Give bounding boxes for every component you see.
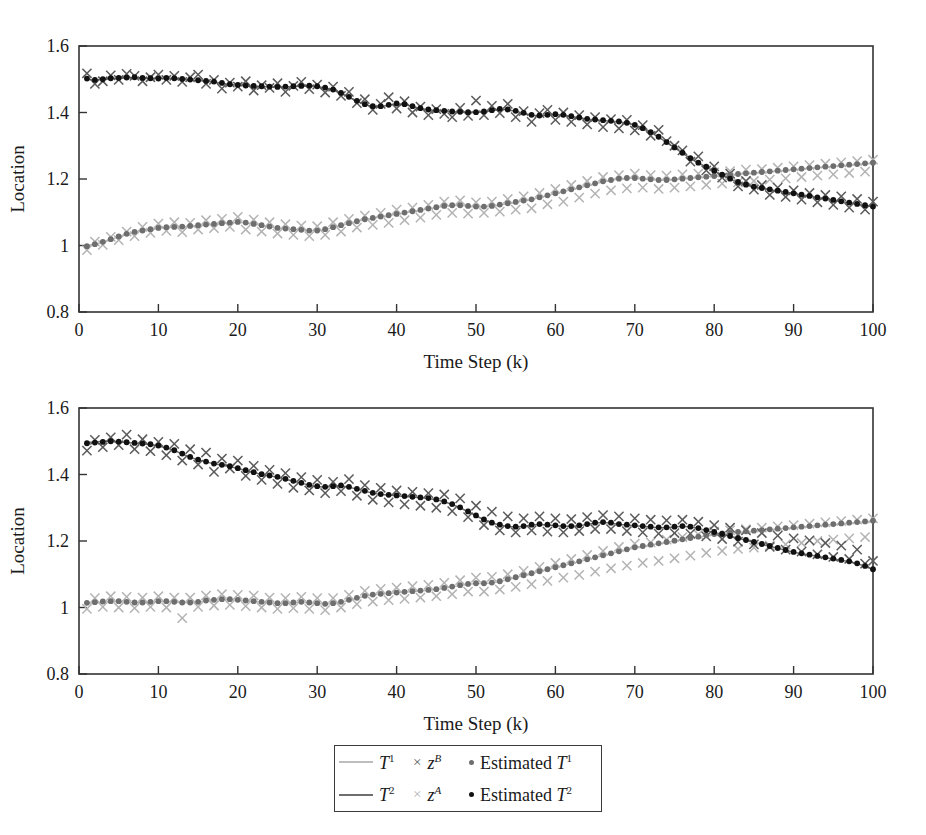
legend-marker-entry-2: ×zA xyxy=(413,785,469,804)
x-tick-label: 0 xyxy=(75,320,84,340)
dot-marker-icon xyxy=(469,792,474,797)
y-axis-label: Location xyxy=(7,507,28,575)
x-tick-label: 70 xyxy=(626,320,644,340)
x-tick-label: 60 xyxy=(546,320,564,340)
x-tick-label: 0 xyxy=(75,682,84,702)
x-tick-label: 10 xyxy=(149,320,167,340)
legend-marker-label: zA xyxy=(427,785,441,804)
x-tick-label: 30 xyxy=(308,682,326,702)
chart-panel-bottom: 01020304050607080901000.811.21.41.6Time … xyxy=(0,362,926,737)
series-line-t1 xyxy=(87,163,873,245)
x-tick-label: 20 xyxy=(229,320,247,340)
x-axis-label: Time Step (k) xyxy=(424,713,529,735)
legend-line-entry-2: T2 xyxy=(339,785,413,804)
legend-estimate-label: Estimated T2 xyxy=(480,785,572,804)
legend-estimate-entry-1: Estimated T1 xyxy=(469,753,607,772)
y-tick-label: 1 xyxy=(60,236,69,256)
x-tick-label: 40 xyxy=(388,320,406,340)
x-tick-label: 50 xyxy=(467,320,485,340)
dot-marker-icon xyxy=(469,760,474,765)
chart-svg: 01020304050607080901000.811.21.41.6Time … xyxy=(0,0,926,375)
x-tick-label: 80 xyxy=(705,682,723,702)
series-crosses-zb xyxy=(82,69,877,215)
x-tick-label: 40 xyxy=(388,682,406,702)
legend-estimate-entry-2: Estimated T2 xyxy=(469,785,607,804)
legend-line-entry-1: T1 xyxy=(339,753,413,772)
x-tick-label: 30 xyxy=(308,320,326,340)
y-tick-label: 1.6 xyxy=(47,36,70,56)
y-tick-label: 1.2 xyxy=(47,531,70,551)
x-tick-label: 90 xyxy=(785,320,803,340)
legend-marker-label: zB xyxy=(427,753,441,772)
x-tick-label: 70 xyxy=(626,682,644,702)
cross-marker-icon: × xyxy=(413,787,421,802)
x-tick-label: 60 xyxy=(546,682,564,702)
chart-svg: 01020304050607080901000.811.21.41.6Time … xyxy=(0,362,926,737)
y-tick-label: 1 xyxy=(60,598,69,618)
x-tick-label: 80 xyxy=(705,320,723,340)
legend-line-label: T2 xyxy=(379,785,395,804)
y-tick-label: 1.4 xyxy=(47,465,70,485)
x-tick-label: 100 xyxy=(860,682,887,702)
legend-estimate-label: Estimated T1 xyxy=(480,753,572,772)
legend-marker-entry-1: ×zB xyxy=(413,753,469,772)
legend: T1×zBEstimated T1T2×zAEstimated T2 xyxy=(334,745,602,812)
series-dots-estimated-t2 xyxy=(84,438,876,572)
y-tick-label: 1.4 xyxy=(47,103,70,123)
series-crosses-za xyxy=(82,155,877,255)
series-crosses-zb xyxy=(82,430,877,568)
x-tick-label: 50 xyxy=(467,682,485,702)
y-tick-label: 0.8 xyxy=(47,302,70,322)
series-line-t1 xyxy=(87,521,873,604)
y-tick-label: 1.6 xyxy=(47,398,70,418)
figure-root: 01020304050607080901000.811.21.41.6Time … xyxy=(0,0,926,835)
legend-line-label: T1 xyxy=(379,753,395,772)
x-tick-label: 10 xyxy=(149,682,167,702)
chart-panel-top: 01020304050607080901000.811.21.41.6Time … xyxy=(0,0,926,375)
legend-line-swatch xyxy=(339,794,373,796)
y-axis-label: Location xyxy=(7,145,28,213)
y-tick-label: 0.8 xyxy=(47,664,70,684)
plot-frame xyxy=(79,46,873,312)
legend-line-swatch xyxy=(339,761,373,763)
x-tick-label: 90 xyxy=(785,682,803,702)
cross-marker-icon: × xyxy=(413,755,421,770)
x-tick-label: 20 xyxy=(229,682,247,702)
y-tick-label: 1.2 xyxy=(47,169,70,189)
x-tick-label: 100 xyxy=(860,320,887,340)
